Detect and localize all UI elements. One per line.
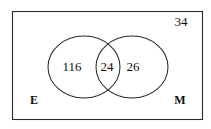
set-label-e: E bbox=[30, 93, 38, 107]
set-label-m: M bbox=[174, 93, 185, 107]
outside-count-label: 34 bbox=[175, 14, 189, 29]
region-count-intersection: 24 bbox=[101, 59, 115, 74]
region-count-e-only: 116 bbox=[62, 59, 82, 74]
venn-diagram-canvas: 34 116 24 26 E M bbox=[0, 0, 211, 129]
venn-diagram-svg: 34 116 24 26 E M bbox=[0, 0, 211, 129]
region-count-m-only: 26 bbox=[127, 59, 141, 74]
